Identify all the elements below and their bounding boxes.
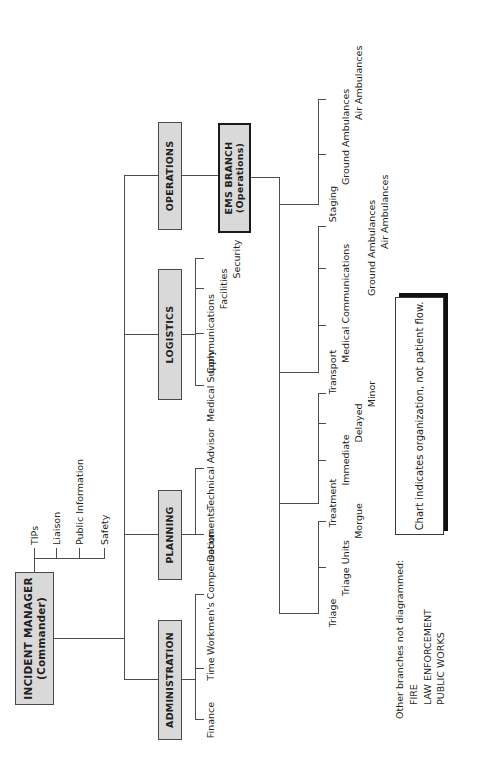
root-drop-line: [54, 638, 124, 639]
rotated-page-wrapper: INCIDENT MANAGER (Commander) TIPs Liaiso…: [0, 0, 477, 766]
staff-bus: [34, 558, 104, 559]
logistics-tick-medical-supply: [195, 385, 204, 386]
ems-unit-staging-air-ambulances: Air Ambulances: [354, 66, 365, 120]
ems-group-bus: [279, 177, 280, 614]
drop-planning: [124, 534, 158, 535]
staff-label-public-information: Public Information: [75, 459, 85, 545]
node-ems-branch-line1: EMS BRANCH: [224, 142, 235, 215]
logistics-tick-security: [195, 258, 204, 259]
ems-drop-triage: [279, 613, 318, 614]
drop-administration: [124, 679, 158, 680]
ems-unit-immediate: Immediate: [341, 429, 351, 491]
admin-tick-time: [195, 668, 204, 669]
admin-unit-rail: [195, 595, 196, 720]
drop-operations: [124, 175, 158, 176]
ems-unit-morgue: Morgue: [354, 493, 364, 549]
legend-item-public-works: PUBLIC WORKS: [434, 560, 448, 719]
transport-unit-rail: [318, 227, 319, 373]
legend-other-branches: Other branches not diagrammed: FIRE LAW …: [393, 560, 448, 719]
node-ems-branch: EMS BRANCH (Operations): [218, 123, 251, 233]
staff-label-safety: Safety: [100, 515, 110, 545]
legend-item-fire: FIRE: [407, 560, 421, 719]
ems-unit-staging-ground-ambulances: Ground Ambulances: [341, 123, 352, 185]
planning-tick-technical-advisor: [195, 468, 204, 469]
triage-unit-rail: [318, 522, 319, 614]
staging-tick-ground-ambulances: [318, 154, 326, 155]
staff-tick-tips: [34, 548, 35, 559]
staff-label-liaison: Liaison: [52, 512, 62, 545]
ems-drop-treatment: [279, 503, 318, 504]
treatment-tick-delayed: [318, 423, 326, 424]
staging-unit-rail: [318, 100, 319, 205]
node-administration-label: ADMINISTRATION: [165, 632, 176, 728]
drop-logistics: [124, 334, 158, 335]
ems-group-treatment-label: Treatment: [328, 472, 338, 534]
org-chart-canvas: INCIDENT MANAGER (Commander) TIPs Liaiso…: [0, 0, 477, 766]
logistics-unit-facilities: Facilities: [219, 259, 229, 319]
ems-group-triage-label: Triage: [328, 590, 338, 636]
logistics-unit-communications: Communications: [206, 290, 216, 378]
staff-tick-pio: [79, 548, 80, 559]
operations-to-ems-line: [182, 175, 218, 176]
note-box: Chart indicates organization, not patien…: [395, 297, 444, 535]
ems-unit-triage-units: Triage Units: [341, 533, 351, 603]
logistics-unit-bus: [182, 334, 195, 335]
logistics-tick-facilities: [195, 288, 204, 289]
ems-unit-minor: Minor: [367, 370, 377, 418]
transport-tick-medical-communications: [318, 325, 326, 326]
note-box-text: Chart indicates organization, not patien…: [414, 302, 425, 531]
logistics-tick-communications: [195, 333, 204, 334]
node-logistics-label: LOGISTICS: [165, 306, 176, 364]
node-planning-label: PLANNING: [165, 506, 176, 563]
admin-unit-time: Time: [206, 649, 216, 689]
logistics-unit-rail: [195, 259, 196, 386]
admin-unit-bus: [182, 679, 195, 680]
treatment-tick-immediate: [318, 460, 326, 461]
node-operations: OPERATIONS: [158, 122, 182, 230]
staff-tick-safety: [104, 548, 105, 559]
section-bus: [124, 176, 125, 680]
node-logistics: LOGISTICS: [158, 269, 182, 400]
ems-unit-transport-air-ambulances: Air Ambulances: [380, 195, 391, 249]
planning-unit-documents: Documents: [206, 505, 216, 565]
planning-unit-technical-advisor: Technical Advisor: [206, 425, 216, 513]
ems-unit-medical-communications: Medical Communications: [341, 287, 352, 363]
admin-tick-workmens: [195, 594, 204, 595]
logistics-unit-security: Security: [232, 231, 242, 287]
legend-item-law-enforcement: LAW ENFORCEMENT: [421, 560, 435, 719]
node-incident-manager-line1: INCIDENT MANAGER: [22, 577, 34, 699]
staff-tick-liaison: [56, 548, 57, 559]
node-incident-manager: INCIDENT MANAGER (Commander): [15, 572, 54, 705]
node-ems-branch-line2: (Operations): [235, 143, 246, 213]
planning-unit-bus: [182, 534, 195, 535]
ems-drop-line: [251, 177, 279, 178]
staging-tick-air-ambulances: [318, 99, 326, 100]
staff-label-tips: TIPs: [30, 526, 40, 545]
planning-tick-documents: [195, 534, 204, 535]
ems-drop-staging: [279, 204, 318, 205]
triage-tick-triage-units: [318, 567, 326, 568]
node-incident-manager-line2: (Commander): [35, 597, 47, 680]
node-operations-label: OPERATIONS: [165, 141, 176, 211]
treatment-tick-minor: [318, 393, 326, 394]
ems-group-transport-label: Transport: [328, 343, 338, 401]
treatment-unit-rail: [318, 394, 319, 504]
node-administration: ADMINISTRATION: [158, 620, 182, 740]
admin-unit-finance: Finance: [206, 700, 216, 740]
node-planning: PLANNING: [158, 490, 182, 580]
ems-unit-transport-ground-ambulances: Ground Ambulances: [367, 234, 378, 296]
ems-drop-transport: [279, 372, 318, 373]
ems-group-staging-label: Staging: [328, 179, 338, 229]
transport-tick-air-ambulances: [318, 226, 326, 227]
triage-tick-morgue: [318, 521, 326, 522]
transport-tick-ground-ambulances: [318, 268, 326, 269]
staff-stem: [34, 558, 35, 572]
admin-tick-finance: [195, 719, 204, 720]
ems-unit-delayed: Delayed: [354, 395, 364, 451]
legend-heading: Other branches not diagrammed:: [393, 560, 407, 719]
planning-unit-rail: [195, 469, 196, 535]
